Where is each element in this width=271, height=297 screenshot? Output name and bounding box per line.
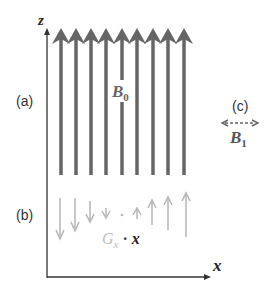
b0-arrow <box>82 28 100 175</box>
gradient-arrow-up <box>164 197 172 230</box>
b1-symbol: B <box>230 128 241 147</box>
gradient-dot: · <box>122 230 127 247</box>
z-axis-label: z <box>38 12 44 29</box>
x-axis <box>47 274 211 280</box>
gradient-arrow-up <box>133 208 141 219</box>
gradient-arrow-down <box>71 198 79 231</box>
b0-arrow <box>67 28 85 175</box>
b0-subscript: 0 <box>123 91 129 103</box>
panel-label-c: (c) <box>232 98 248 114</box>
gradient-variable: x <box>132 230 140 247</box>
b0-symbol: B <box>112 82 123 101</box>
b0-arrow <box>128 28 146 175</box>
x-axis-label: x <box>213 256 222 276</box>
b0-arrow <box>175 28 193 175</box>
gradient-subscript: x <box>114 238 119 250</box>
b0-arrow <box>144 28 162 175</box>
gradient-arrow-up <box>148 200 156 225</box>
panel-label-a: (a) <box>16 93 33 109</box>
gradient-arrow-down <box>102 208 110 218</box>
b0-arrow <box>159 28 177 175</box>
gradient-symbol: G <box>102 230 114 247</box>
b1-subscript: 1 <box>241 137 247 149</box>
b1-label: B1 <box>230 128 247 149</box>
gradient-label: Gx · x <box>102 230 140 250</box>
z-axis <box>44 28 50 278</box>
b0-label: B0 <box>112 82 129 103</box>
gradient-arrow-down <box>86 201 94 222</box>
b0-arrow <box>52 28 70 175</box>
b1-field-arrow <box>222 120 258 126</box>
gradient-arrow-down <box>56 198 64 239</box>
panel-label-b: (b) <box>16 207 33 223</box>
gradient-zero-dot <box>121 214 124 217</box>
gradient-arrow-up <box>182 193 190 237</box>
